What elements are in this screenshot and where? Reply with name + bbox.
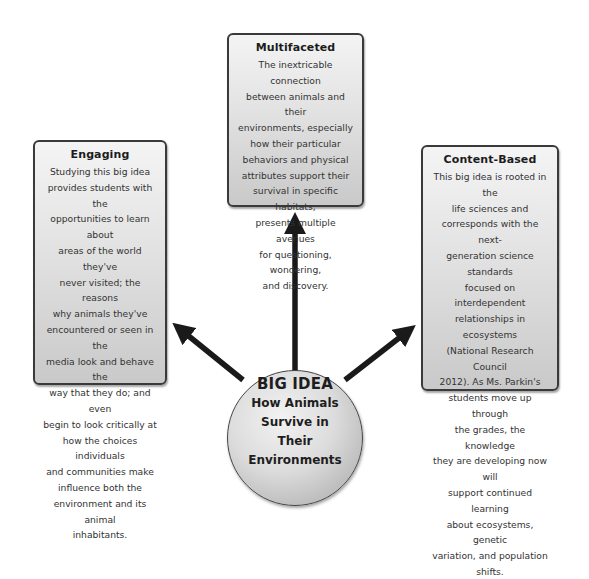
big-idea-circle: BIG IDEA How Animals Survive in Their En… (227, 370, 363, 506)
text-line: corresponds with the next- (429, 216, 551, 248)
big-idea-subtitle: How Animals Survive in Their Environment… (228, 394, 362, 470)
text-line: Studying this big idea (41, 164, 159, 180)
subtitle-line: Their (228, 432, 362, 451)
text-line: presents multiple avenues (235, 215, 356, 247)
engaging-title: Engaging (41, 148, 159, 161)
text-line: behaviors and physical (235, 152, 356, 168)
text-line: how the choices individuals (41, 433, 159, 465)
text-line: life sciences and (429, 201, 551, 217)
subtitle-line: Survive in (228, 413, 362, 432)
text-line: generation science standards (429, 248, 551, 280)
text-line: way that they do; and even (41, 385, 159, 417)
multifaceted-body: The inextricable connection between anim… (235, 57, 356, 294)
multifaceted-title: Multifaceted (235, 41, 356, 54)
arrow-to-content-based (345, 331, 408, 380)
text-line: areas of the world they've (41, 243, 159, 275)
text-line: influence both the (41, 480, 159, 496)
text-line: support continued learning (429, 485, 551, 517)
text-line: The inextricable connection (235, 57, 356, 89)
subtitle-line: How Animals (228, 394, 362, 413)
text-line: and discovery. (235, 278, 356, 294)
text-line: survival in specific habitats, (235, 183, 356, 215)
text-line: (National Research Council (429, 343, 551, 375)
text-line: environment and its animal (41, 496, 159, 528)
text-line: environments, especially (235, 120, 356, 136)
subtitle-line: Environments (228, 451, 362, 470)
text-line: how their particular (235, 136, 356, 152)
text-line: attributes support their (235, 168, 356, 184)
engaging-body: Studying this big idea provides students… (41, 164, 159, 543)
text-line: variation, and population (429, 548, 551, 564)
text-line: students move up through (429, 390, 551, 422)
content-based-box: Content-Based This big idea is rooted in… (421, 145, 559, 391)
text-line: relationships in ecosystems (429, 311, 551, 343)
text-line: for questioning, wondering, (235, 247, 356, 279)
content-based-title: Content-Based (429, 153, 551, 166)
text-line: media look and behave the (41, 354, 159, 386)
text-line: opportunities to learn about (41, 211, 159, 243)
text-line: they are developing now will (429, 453, 551, 485)
content-based-body: This big idea is rooted in the life scie… (429, 169, 551, 579)
text-line: shifts. (429, 564, 551, 579)
text-line: This big idea is rooted in the (429, 169, 551, 201)
text-line: focused on interdependent (429, 280, 551, 312)
text-line: between animals and their (235, 89, 356, 121)
text-line: never visited; the reasons (41, 275, 159, 307)
engaging-box: Engaging Studying this big idea provides… (33, 140, 167, 385)
text-line: why animals they've (41, 306, 159, 322)
text-line: 2012). As Ms. Parkin's (429, 374, 551, 390)
text-line: and communities make (41, 464, 159, 480)
text-line: about ecosystems, genetic (429, 517, 551, 549)
text-line: begin to look critically at (41, 417, 159, 433)
text-line: inhabitants. (41, 527, 159, 543)
big-idea-title: BIG IDEA (228, 375, 362, 393)
text-line: encountered or seen in the (41, 322, 159, 354)
multifaceted-box: Multifaceted The inextricable connection… (227, 33, 364, 207)
text-line: provides students with the (41, 180, 159, 212)
text-line: the grades, the knowledge (429, 422, 551, 454)
arrow-to-engaging (180, 329, 243, 380)
